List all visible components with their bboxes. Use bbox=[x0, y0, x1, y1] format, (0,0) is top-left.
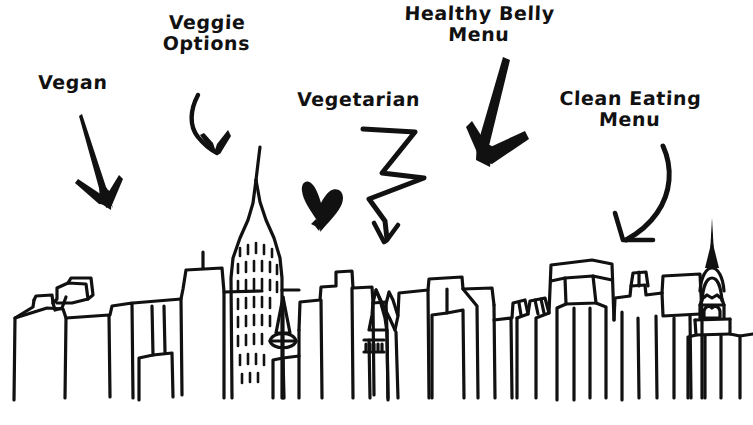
arrow-healthy-belly-menu bbox=[466, 57, 529, 167]
chrysler-building bbox=[688, 218, 753, 398]
heart-icon bbox=[302, 181, 343, 232]
city-skyline bbox=[14, 147, 388, 400]
label-vegan: Vegan bbox=[38, 72, 108, 93]
skyline-illustration bbox=[0, 0, 753, 425]
label-vegetarian: Vegetarian bbox=[297, 89, 421, 110]
label-clean-eating-menu: Clean Eating Menu bbox=[558, 88, 702, 131]
city-skyline-right bbox=[364, 260, 702, 400]
arrow-clean-eating-menu bbox=[626, 146, 669, 240]
label-veggie-options: Veggie Options bbox=[162, 12, 251, 55]
label-healthy-belly-menu: Healthy Belly Menu bbox=[403, 3, 555, 46]
illustration-canvas: Vegan Veggie Options Vegetarian Healthy … bbox=[0, 0, 753, 425]
arrow-vegan bbox=[75, 114, 123, 210]
skyscraper-window-hatching bbox=[238, 243, 277, 383]
